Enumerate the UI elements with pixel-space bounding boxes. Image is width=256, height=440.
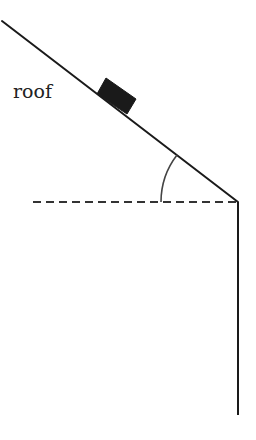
roof-label: roof	[13, 80, 54, 102]
angle-arc	[161, 155, 177, 202]
roof-line	[2, 21, 238, 202]
roof-incline-diagram: roof	[0, 0, 256, 440]
